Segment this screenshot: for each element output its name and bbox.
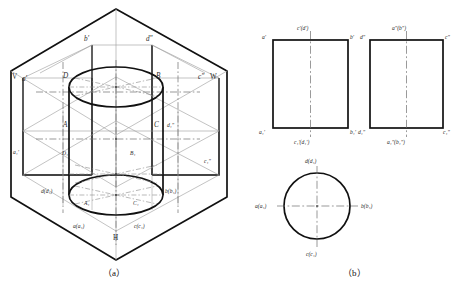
projection-box-axes: [11, 9, 227, 260]
label-solid-A1: A₁: [83, 200, 89, 206]
side-label-top-left: d": [360, 34, 366, 40]
front-label-top-center: c'(d'): [297, 25, 309, 32]
label-plane-h: H: [113, 234, 118, 242]
side-view: d" a"(b") c" d₁" a₁"(b₁") c₁": [358, 25, 450, 146]
pictorial-centre-lines: [36, 60, 200, 245]
label-d-d1: d(d₁): [41, 188, 52, 195]
label-solid-B: B: [156, 72, 161, 80]
top-label-top: d(d₁): [305, 158, 316, 165]
top-label-bottom: c(c₁): [306, 251, 317, 258]
label-c-dprime: c": [198, 73, 205, 81]
label-c-c1: c(c₁): [134, 223, 145, 230]
side-label-top-right: c": [445, 34, 450, 40]
label-b-prime: b': [84, 35, 90, 43]
top-label-right: b(b₁): [361, 203, 372, 210]
technical-drawing-svg: V W H b' d" a' c" D B A C d₁" a₁' c₁" D₁…: [0, 0, 458, 291]
label-b-b1: b(b₁): [165, 188, 176, 195]
label-solid-B1: B₁: [130, 150, 135, 156]
label-solid-D: D: [62, 72, 69, 80]
label-d-dprime: d": [146, 35, 154, 43]
front-label-top-left: a': [262, 34, 267, 40]
top-view-centre-dot: [316, 205, 318, 207]
side-label-bottom-center: a₁"(b₁"): [387, 139, 405, 146]
pictorial-view: V W H b' d" a' c" D B A C d₁" a₁' c₁" D₁…: [11, 9, 227, 278]
side-label-bottom-left: d₁": [358, 129, 366, 135]
orthographic-views: a' c'(d') b' a₁' c₁'(d₁') b₁' d" a"(b") …: [255, 25, 450, 278]
top-label-left: a(a₁): [255, 203, 266, 210]
label-solid-A: A: [62, 121, 68, 129]
front-label-bottom-left: a₁': [259, 129, 266, 135]
front-view: a' c'(d') b' a₁' c₁'(d₁') b₁': [259, 25, 357, 146]
side-label-top-center: a"(b"): [392, 25, 406, 32]
projection-box-outline: [11, 9, 227, 260]
label-a-prime: a': [22, 75, 28, 83]
label-plane-w: W: [210, 73, 217, 81]
front-label-top-right: b': [350, 34, 355, 40]
label-d1-dprime: d₁": [167, 122, 175, 128]
front-label-bottom-center: c₁'(d₁'): [294, 139, 309, 146]
plane-v: [23, 78, 92, 175]
label-solid-C: C: [154, 121, 159, 129]
label-a1-prime: a₁': [13, 149, 20, 155]
caption-b: （b）: [343, 268, 366, 278]
label-c1-dprime: c₁": [204, 158, 211, 164]
top-view: d(d₁) a(a₁) b(b₁) c(c₁): [255, 158, 372, 258]
label-plane-v: V: [12, 73, 18, 81]
front-label-bottom-right: b₁': [350, 129, 357, 135]
label-solid-C1: C₁: [133, 200, 139, 206]
caption-a: （a）: [103, 268, 125, 278]
label-a-a1: a(a₁): [73, 223, 84, 230]
side-label-bottom-right: c₁": [443, 129, 450, 135]
projection-panel-edges: [92, 45, 152, 78]
construction-lines: [23, 45, 219, 210]
label-solid-D1: D₁: [61, 150, 68, 156]
drawing-canvas: V W H b' d" a' c" D B A C d₁" a₁' c₁" D₁…: [0, 0, 458, 291]
